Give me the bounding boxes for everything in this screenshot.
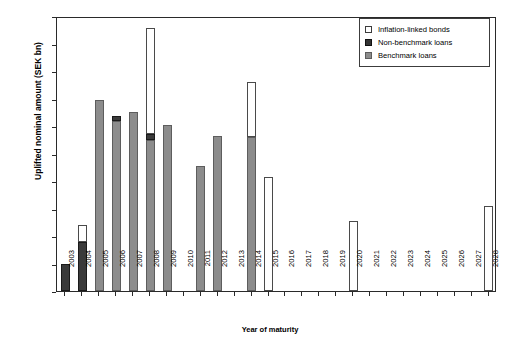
x-tick-label: 2015 bbox=[271, 250, 280, 296]
legend-label: Benchmark loans bbox=[378, 51, 437, 60]
x-tick-label: 2012 bbox=[220, 250, 229, 296]
x-tick-label: 2008 bbox=[152, 250, 161, 296]
bar-segment bbox=[247, 82, 256, 137]
x-tick-mark bbox=[115, 292, 116, 296]
legend-label: Inflation-linked bonds bbox=[378, 25, 450, 34]
x-tick-label: 2028 bbox=[491, 250, 500, 296]
x-tick-label: 2023 bbox=[406, 250, 415, 296]
x-tick-mark bbox=[335, 292, 336, 296]
x-tick-mark bbox=[403, 292, 404, 296]
x-tick-label: 2014 bbox=[254, 250, 263, 296]
x-tick-mark bbox=[64, 292, 65, 296]
x-tick-label: 2017 bbox=[304, 250, 313, 296]
x-tick-label: 2003 bbox=[67, 250, 76, 296]
x-tick-mark bbox=[352, 292, 353, 296]
x-tick-mark bbox=[183, 292, 184, 296]
x-tick-label: 2010 bbox=[186, 250, 195, 296]
x-tick-label: 2016 bbox=[287, 250, 296, 296]
x-tick-label: 2022 bbox=[389, 250, 398, 296]
legend-swatch-inflation-linked-bonds-icon bbox=[365, 26, 372, 33]
x-tick-mark bbox=[454, 292, 455, 296]
bar-chart: Uplifted nominal amount (SEK bn) 0102030… bbox=[0, 0, 505, 346]
x-tick-label: 2025 bbox=[440, 250, 449, 296]
bar-segment bbox=[146, 134, 155, 140]
x-tick-mark bbox=[471, 292, 472, 296]
x-tick-mark bbox=[284, 292, 285, 296]
y-tick-mark bbox=[52, 292, 56, 293]
x-tick-label: 2006 bbox=[118, 250, 127, 296]
x-tick-label: 2020 bbox=[355, 250, 364, 296]
x-tick-mark bbox=[488, 292, 489, 296]
x-tick-mark bbox=[132, 292, 133, 296]
x-tick-label: 2018 bbox=[321, 250, 330, 296]
x-tick-mark bbox=[200, 292, 201, 296]
x-tick-mark bbox=[98, 292, 99, 296]
bar-segment bbox=[146, 28, 155, 134]
x-tick-mark bbox=[301, 292, 302, 296]
x-tick-label: 2021 bbox=[372, 250, 381, 296]
bar-segment bbox=[112, 116, 121, 120]
x-tick-label: 2007 bbox=[135, 250, 144, 296]
x-tick-label: 2024 bbox=[423, 250, 432, 296]
x-tick-label: 2009 bbox=[169, 250, 178, 296]
x-tick-label: 2004 bbox=[84, 250, 93, 296]
legend-swatch-non-benchmark-loans-icon bbox=[365, 39, 372, 46]
x-tick-mark bbox=[318, 292, 319, 296]
bar-segment bbox=[78, 225, 87, 242]
x-tick-label: 2027 bbox=[474, 250, 483, 296]
legend-item[interactable]: Inflation-linked bonds bbox=[365, 23, 484, 36]
x-tick-mark bbox=[234, 292, 235, 296]
x-tick-label: 2005 bbox=[101, 250, 110, 296]
legend-item[interactable]: Benchmark loans bbox=[365, 49, 484, 62]
x-tick-label: 2019 bbox=[338, 250, 347, 296]
x-tick-mark bbox=[149, 292, 150, 296]
x-axis-title: Year of maturity bbox=[190, 325, 350, 334]
x-tick-mark bbox=[268, 292, 269, 296]
x-tick-mark bbox=[386, 292, 387, 296]
x-tick-mark bbox=[251, 292, 252, 296]
y-axis-title: Uplifted nominal amount (SEK bn) bbox=[33, 1, 43, 221]
legend-label: Non-benchmark loans bbox=[378, 38, 452, 47]
x-tick-label: 2026 bbox=[457, 250, 466, 296]
chart-legend: Inflation-linked bonds Non-benchmark loa… bbox=[359, 18, 490, 67]
x-tick-mark bbox=[217, 292, 218, 296]
x-tick-label: 2011 bbox=[203, 250, 212, 296]
x-tick-mark bbox=[166, 292, 167, 296]
x-tick-mark bbox=[369, 292, 370, 296]
legend-swatch-benchmark-loans-icon bbox=[365, 52, 372, 59]
x-tick-label: 2013 bbox=[237, 250, 246, 296]
x-tick-mark bbox=[81, 292, 82, 296]
x-tick-mark bbox=[420, 292, 421, 296]
x-tick-mark bbox=[437, 292, 438, 296]
legend-item[interactable]: Non-benchmark loans bbox=[365, 36, 484, 49]
